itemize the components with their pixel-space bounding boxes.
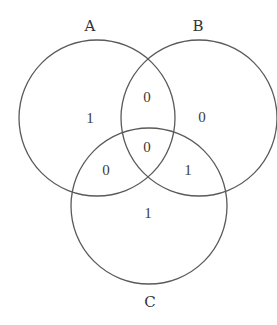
set-label-a: A <box>84 17 96 35</box>
region-value-b-only: 0 <box>198 109 206 125</box>
region-value-a-and-b-and-c: 0 <box>143 139 151 155</box>
venn-diagram: ABC 1000011 <box>0 0 277 325</box>
region-values: 1000011 <box>86 89 206 221</box>
region-value-a-and-b: 0 <box>143 89 151 105</box>
set-label-b: B <box>192 17 203 35</box>
region-value-c-only: 1 <box>144 205 152 221</box>
circle-a <box>19 40 175 196</box>
region-value-a-only: 1 <box>86 110 94 126</box>
region-value-b-and-c: 1 <box>184 162 192 178</box>
set-circles <box>19 40 277 284</box>
region-value-a-and-c: 0 <box>102 162 110 178</box>
set-label-c: C <box>144 293 155 311</box>
